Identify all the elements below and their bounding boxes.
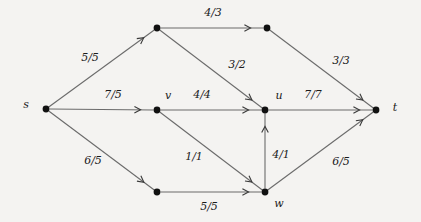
edge-label-a-b: 4/3 <box>203 6 222 19</box>
node-label-w: w <box>274 197 284 210</box>
edge-label-v-w: 1/1 <box>185 150 203 163</box>
edge-label-s-v: 7/5 <box>104 88 122 101</box>
edge-label-w-u: 4/1 <box>271 148 290 161</box>
edge-s-a <box>49 30 155 107</box>
edge-v-w <box>160 112 263 190</box>
edge-label-s-a: 5/5 <box>81 51 99 64</box>
edge-label-v-u: 4/4 <box>192 88 211 101</box>
edge-s-c <box>49 111 155 190</box>
graph-canvas: svutw 5/54/33/33/27/54/47/76/51/14/15/56… <box>0 0 421 222</box>
node-u <box>262 107 269 114</box>
node-w <box>262 189 269 196</box>
node-a <box>154 25 161 32</box>
node-label-v: v <box>165 89 172 102</box>
node-b <box>264 25 271 32</box>
node-label-s: s <box>23 98 29 111</box>
edge-label-a-u: 3/2 <box>228 58 246 71</box>
flow-network-figure: svutw 5/54/33/33/27/54/47/76/51/14/15/56… <box>0 0 421 222</box>
node-label-u: u <box>275 89 282 102</box>
edge-label-b-t: 3/3 <box>332 54 350 67</box>
node-t <box>373 107 380 114</box>
edge-label-w-t: 6/5 <box>332 155 350 168</box>
node-v <box>154 107 161 114</box>
edge-a-u <box>160 30 263 108</box>
edge-s-v <box>49 109 153 110</box>
edge-label-u-t: 7/7 <box>304 88 322 101</box>
node-c <box>154 189 161 196</box>
edge-label-c-w: 5/5 <box>200 200 218 213</box>
node-label-t: t <box>393 101 398 114</box>
node-s <box>43 106 50 113</box>
edge-label-s-c: 6/5 <box>84 154 102 167</box>
